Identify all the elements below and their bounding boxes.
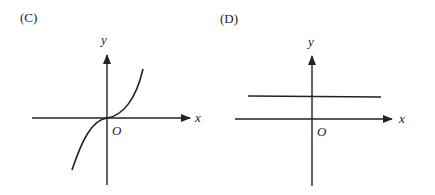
panel-d-label: (D) bbox=[220, 12, 238, 25]
figure-canvas bbox=[0, 0, 435, 195]
panel-d-graph bbox=[235, 56, 392, 186]
panel-c-label: (C) bbox=[20, 11, 37, 24]
panel-c-x-label: x bbox=[195, 111, 201, 124]
panel-d-origin-label: O bbox=[317, 125, 326, 138]
panel-d-horizontal-line bbox=[248, 96, 381, 97]
panel-c-graph bbox=[32, 55, 190, 185]
panel-d-y-label: y bbox=[308, 35, 314, 48]
panel-d-x-label: x bbox=[399, 112, 405, 125]
panel-c-origin-label: O bbox=[112, 124, 121, 137]
panel-c-y-label: y bbox=[101, 33, 107, 46]
